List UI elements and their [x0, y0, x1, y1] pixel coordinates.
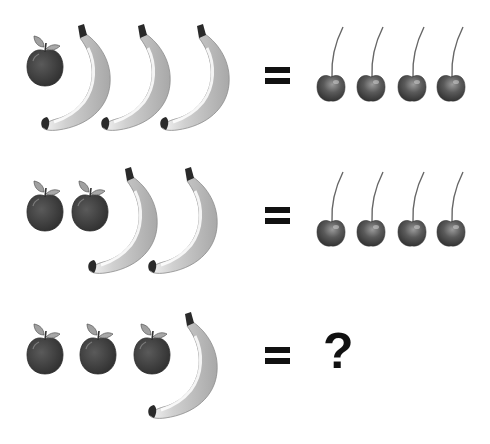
apple-icon	[25, 180, 65, 232]
cherry-icon	[436, 170, 466, 248]
cherry-icon	[356, 170, 386, 248]
cherry-icon	[436, 25, 466, 103]
cherry-icon	[397, 25, 427, 103]
cherry-icon	[397, 170, 427, 248]
cherry-icon	[356, 25, 386, 103]
apple-icon	[25, 323, 65, 375]
banana-icon	[157, 24, 239, 134]
cherry-icon	[316, 25, 346, 103]
equals-sign	[265, 207, 290, 225]
question-mark: ?	[323, 326, 354, 376]
banana-icon	[145, 167, 227, 277]
cherry-icon	[316, 170, 346, 248]
equals-sign	[265, 347, 290, 365]
banana-icon	[145, 312, 227, 422]
apple-icon	[78, 323, 118, 375]
equals-sign	[265, 67, 290, 85]
